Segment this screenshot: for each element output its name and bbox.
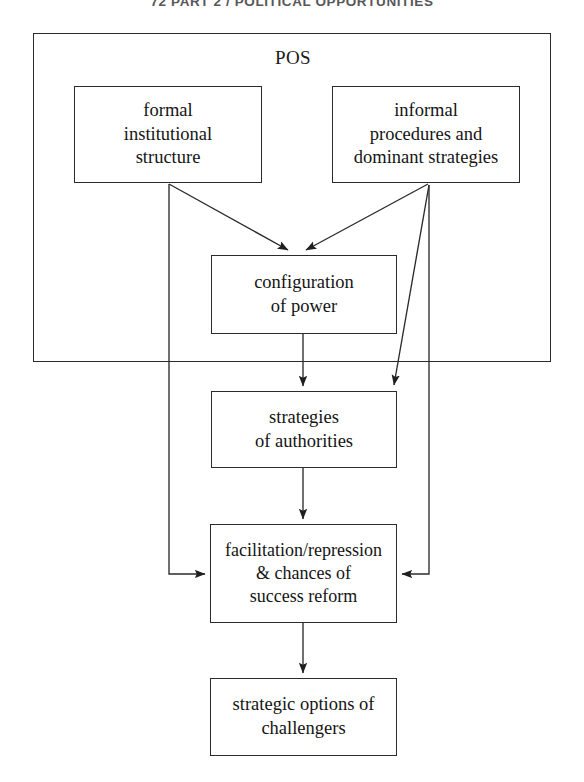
node-label: informal procedures and dominant strateg…	[354, 99, 498, 170]
node-strategic-options-of-challengers: strategic options of challengers	[210, 678, 397, 756]
flowchart-diagram: 72 PART 2 / POLITICAL OPPORTUNITIES	[0, 0, 584, 782]
page-running-head: 72 PART 2 / POLITICAL OPPORTUNITIES	[0, 0, 584, 12]
node-formal-institutional-structure: formal institutional structure	[74, 86, 262, 183]
node-label: strategic options of challengers	[233, 693, 375, 740]
node-informal-procedures-dominant-strategies: informal procedures and dominant strateg…	[332, 86, 520, 183]
node-label: configuration of power	[254, 271, 354, 318]
node-strategies-of-authorities: strategies of authorities	[211, 391, 397, 468]
running-head-text: 72 PART 2 / POLITICAL OPPORTUNITIES	[150, 0, 433, 9]
node-label: formal institutional structure	[124, 99, 212, 170]
node-facilitation-repression-chances-of-success-reform: facilitation/repression & chances of suc…	[210, 524, 397, 623]
pos-container-label: POS	[34, 47, 552, 69]
node-label: strategies of authorities	[255, 406, 353, 453]
node-configuration-of-power: configuration of power	[211, 255, 397, 334]
node-label: facilitation/repression & chances of suc…	[225, 539, 382, 608]
